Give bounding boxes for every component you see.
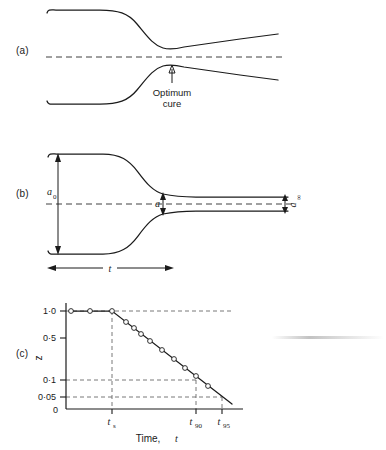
xtick-label-t95: t 95 <box>218 416 231 430</box>
data-point-marker <box>110 309 115 314</box>
data-point-marker <box>132 326 137 331</box>
data-point-marker <box>172 357 177 362</box>
panel-c-graphic: 1·0 0·5 0·1 0·05 0 z t s t 90 t 95 Time,… <box>0 0 386 450</box>
panel-c-y-axis-title: z <box>33 356 44 361</box>
svg-text:90: 90 <box>195 422 203 430</box>
svg-text:s: s <box>113 422 116 430</box>
ytick-label-0-1: 0·1 <box>43 375 56 385</box>
figure-cure-characterisation: (a) Optimum cure (b) a 0 a <box>0 0 386 450</box>
svg-text:t: t <box>218 416 221 427</box>
data-point-marker <box>183 366 188 371</box>
panel-c-data-line <box>70 311 232 404</box>
data-point-marker <box>69 309 74 314</box>
data-point-marker <box>160 348 165 353</box>
ytick-label-0-05: 0·05 <box>38 392 56 402</box>
svg-text:95: 95 <box>223 422 231 430</box>
ytick-label-0-5: 0·5 <box>43 333 56 343</box>
panel-c-x-axis-title-variable: t <box>175 433 178 444</box>
data-point-marker <box>139 332 144 337</box>
ytick-label-0: 0 <box>53 405 58 415</box>
svg-text:t: t <box>108 416 111 427</box>
svg-text:t: t <box>190 416 193 427</box>
ytick-label-1-0: 1·0 <box>43 306 56 316</box>
data-point-marker <box>148 339 153 344</box>
data-point-marker <box>124 320 129 325</box>
xtick-label-t90: t 90 <box>190 416 203 430</box>
data-point-marker <box>206 384 211 389</box>
data-point-marker <box>88 309 93 314</box>
xtick-label-ts: t s <box>108 416 116 430</box>
data-point-marker <box>194 374 199 379</box>
panel-c-x-axis-title: Time, <box>136 433 161 444</box>
